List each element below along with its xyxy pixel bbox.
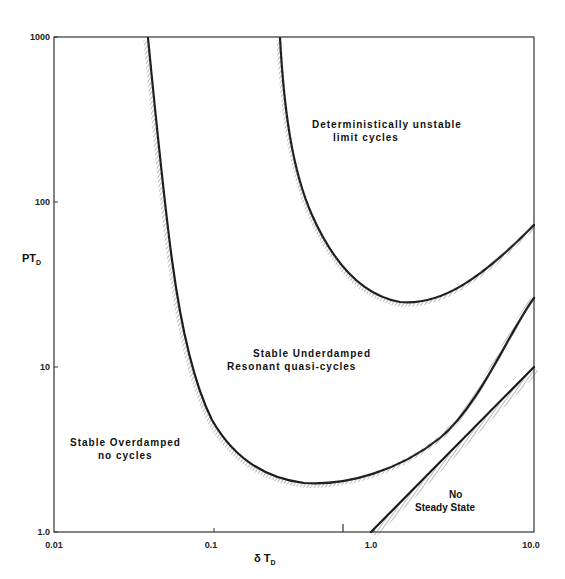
region-label-unstable: Deterministically unstable — [312, 119, 462, 130]
x-axis: 0.01 0.1 1.0 10.0 δ TD — [45, 524, 540, 566]
region-label-underdamped: Resonant quasi-cycles — [227, 361, 356, 372]
y-tick-label: 100 — [35, 197, 50, 207]
y-axis-label: PTD — [22, 252, 41, 266]
y-tick-label: 1.0 — [37, 527, 50, 537]
region-label-no-steady-state: Steady State — [415, 502, 475, 513]
region-label-no-steady-state: No — [449, 489, 462, 500]
region-label-overdamped: Stable Overdamped — [70, 437, 181, 448]
hatching — [279, 40, 533, 304]
y-axis: 1.0 10 100 1000 PTD — [22, 32, 58, 537]
x-tick-label: 0.01 — [45, 540, 63, 550]
y-tick-label: 10 — [40, 362, 50, 372]
x-axis-label: δ TD — [254, 552, 276, 566]
x-tick-label: 0.1 — [205, 540, 218, 550]
region-label-overdamped: no cycles — [98, 450, 153, 461]
region-label-unstable: limit cycles — [333, 132, 399, 143]
region-label-underdamped: Stable Underdamped — [253, 348, 371, 359]
curves — [146, 38, 537, 535]
x-tick-label: 10.0 — [522, 540, 540, 550]
x-tick-label: 1.0 — [365, 540, 378, 550]
phase-diagram-chart: 1.0 10 100 1000 PTD 0.01 0.1 1.0 10.0 δ … — [0, 0, 565, 579]
y-tick-label: 1000 — [30, 32, 50, 42]
